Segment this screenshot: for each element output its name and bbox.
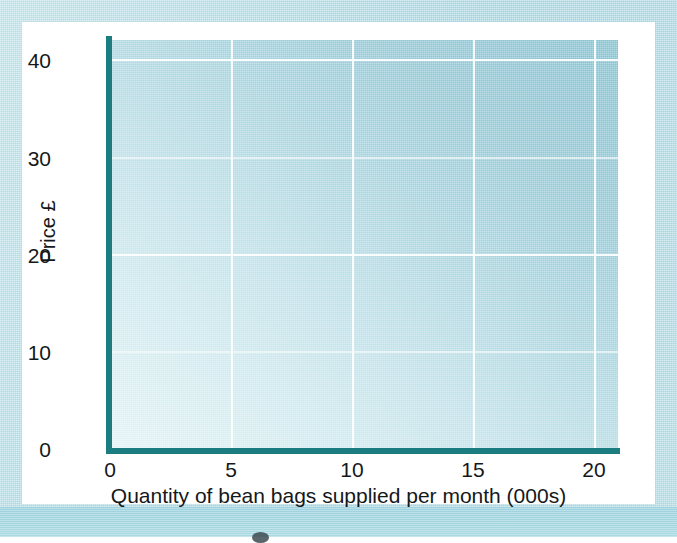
y-axis-line [106,36,112,454]
x-tick-label-20: 20 [564,459,624,480]
x-tick-label-15: 15 [443,459,503,480]
y-tick-label-40: 40 [3,50,51,71]
y-tick-label-10: 10 [3,342,51,363]
frame-bottom-band [0,507,677,537]
gridline-x-10 [352,40,354,448]
x-axis-title: Quantity of bean bags supplied per month… [22,484,655,508]
white-panel: 40 30 20 10 0 0 5 10 15 20 Price £ Quant… [22,22,655,504]
y-axis-title: Price £ [37,162,60,302]
gridline-x-5 [231,40,233,448]
gridline-x-15 [473,40,475,448]
x-tick-label-5: 5 [201,459,261,480]
gridline-y-40 [110,59,618,61]
x-tick-label-0: 0 [80,459,140,480]
y-tick-label-0: 0 [3,439,51,460]
gridline-y-10 [110,351,618,353]
x-axis-line [106,448,620,454]
x-tick-label-10: 10 [322,459,382,480]
gridline-y-30 [110,157,618,159]
supply-grid-chart: 40 30 20 10 0 0 5 10 15 20 Price £ Quant… [22,22,655,504]
cropped-page-mark [252,532,269,543]
plot-area [110,40,618,448]
gridline-x-20 [594,40,596,448]
gridline-y-20 [110,254,618,256]
